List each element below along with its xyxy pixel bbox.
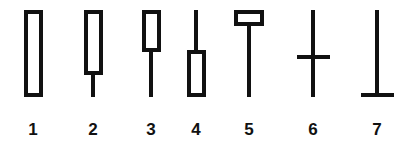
candle-7-wick: [375, 10, 379, 97]
candlestick-shapes-figure: 1 2 3 4 5 6 7: [0, 0, 411, 153]
candle-label-1: 1: [13, 119, 53, 141]
candle-label-7: 7: [357, 119, 397, 141]
candlestick-7: [0, 0, 411, 110]
candle-label-4: 4: [176, 119, 216, 141]
candle-label-5: 5: [229, 119, 269, 141]
candle-label-2: 2: [73, 119, 113, 141]
candle-7-base-bar: [361, 93, 394, 97]
candle-label-6: 6: [293, 119, 333, 141]
candle-label-3: 3: [131, 119, 171, 141]
